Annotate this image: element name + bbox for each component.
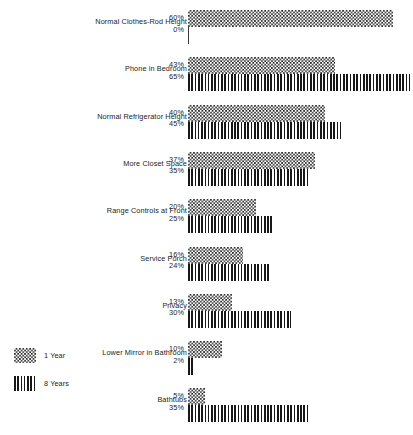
bar-pair — [188, 105, 342, 139]
value-labels: 16%24% — [156, 249, 184, 272]
bar-eight-years — [188, 405, 308, 422]
value-label: 37% — [156, 154, 184, 166]
legend-item-8-years: 8 Years — [14, 373, 69, 393]
bar-pair — [188, 247, 270, 281]
bar-eight-years — [188, 74, 410, 91]
value-label: 65% — [156, 71, 184, 83]
bar-pair — [188, 388, 308, 422]
value-label: 25% — [156, 213, 184, 225]
bar-one-year — [188, 57, 335, 74]
value-labels: 13%30% — [156, 296, 184, 319]
bar-eight-years — [188, 358, 195, 375]
value-label: 43% — [156, 59, 184, 71]
bar-one-year — [188, 294, 232, 311]
value-label: 45% — [156, 118, 184, 130]
value-label: 20% — [156, 201, 184, 213]
bar-eight-years — [188, 311, 291, 328]
bar-one-year — [188, 341, 222, 358]
legend-label: 8 Years — [44, 379, 69, 388]
value-label: 0% — [156, 24, 184, 36]
bar-one-year — [188, 388, 205, 405]
value-label: 2% — [156, 355, 184, 367]
value-label: 40% — [156, 107, 184, 119]
value-label: 13% — [156, 296, 184, 308]
value-label: 35% — [156, 165, 184, 177]
value-label: 60% — [156, 12, 184, 24]
legend-swatch-stripes-icon — [14, 376, 36, 391]
value-labels: 5%35% — [156, 390, 184, 413]
value-labels: 20%25% — [156, 201, 184, 224]
chart-legend: 1 Year 8 Years — [14, 345, 69, 401]
horizontal-bar-chart: Normal Clothes-Rod Height60%0%Phone in B… — [0, 0, 413, 435]
value-labels: 37%35% — [156, 154, 184, 177]
value-label: 35% — [156, 402, 184, 414]
value-label: 16% — [156, 249, 184, 261]
bar-one-year — [188, 105, 325, 122]
bar-pair — [188, 57, 410, 91]
value-label: 24% — [156, 260, 184, 272]
bar-pair — [188, 152, 315, 186]
value-label: 5% — [156, 390, 184, 402]
bar-pair — [188, 10, 393, 44]
bar-one-year — [188, 247, 243, 264]
value-labels: 60%0% — [156, 12, 184, 35]
bar-pair — [188, 341, 222, 375]
bar-eight-years — [188, 27, 189, 44]
bar-one-year — [188, 10, 393, 27]
bar-eight-years — [188, 169, 308, 186]
bar-pair — [188, 199, 274, 233]
value-labels: 43%65% — [156, 59, 184, 82]
value-labels: 40%45% — [156, 107, 184, 130]
bar-eight-years — [188, 122, 342, 139]
value-label: 10% — [156, 343, 184, 355]
bar-one-year — [188, 152, 315, 169]
value-label: 30% — [156, 307, 184, 319]
legend-swatch-checkerboard-icon — [14, 348, 36, 363]
bar-pair — [188, 294, 291, 328]
legend-label: 1 Year — [44, 351, 65, 360]
value-labels: 10%2% — [156, 343, 184, 366]
bar-eight-years — [188, 264, 270, 281]
bar-eight-years — [188, 216, 274, 233]
bar-one-year — [188, 199, 256, 216]
legend-item-1-year: 1 Year — [14, 345, 69, 365]
